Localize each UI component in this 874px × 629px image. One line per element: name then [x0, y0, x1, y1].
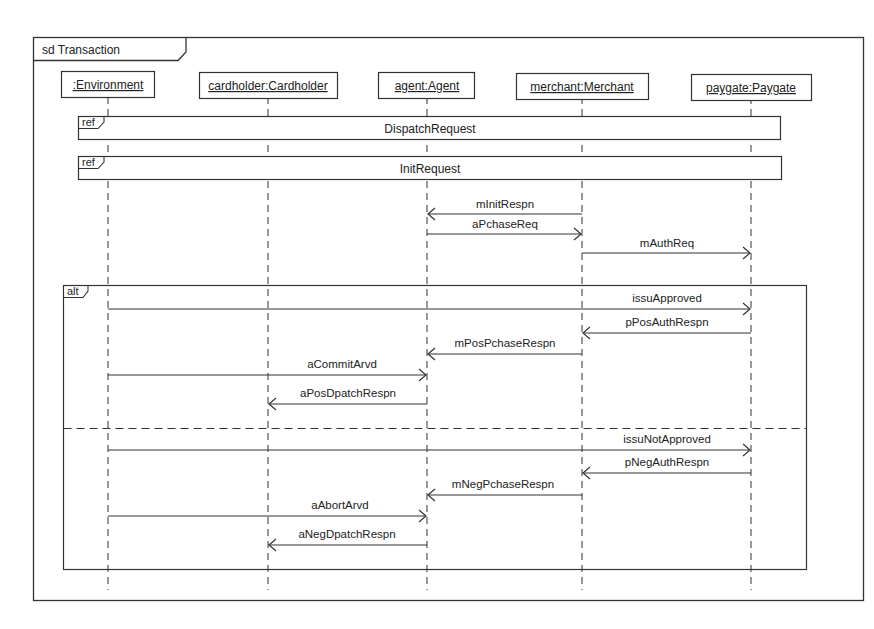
message-issunotapproved: issuNotApproved: [108, 433, 750, 456]
ref-tag: ref: [82, 156, 96, 168]
svg-text:mAuthReq: mAuthReq: [640, 237, 694, 249]
svg-text:cardholder:Cardholder: cardholder:Cardholder: [208, 79, 327, 93]
lifeline-header-agent: agent:Agent: [379, 73, 475, 99]
message-minitrespn: mInitRespn: [428, 198, 582, 220]
lifeline-headers: :Environment cardholder:Cardholder agent…: [62, 72, 812, 101]
svg-text:pNegAuthRespn: pNegAuthRespn: [625, 456, 709, 468]
svg-text::Environment: :Environment: [73, 78, 144, 92]
message-mnegpchaserespn: mNegPchaseRespn: [428, 478, 582, 501]
svg-text:aAbortArvd: aAbortArvd: [311, 499, 369, 511]
svg-text:pPosAuthRespn: pPosAuthRespn: [625, 316, 708, 328]
svg-text:mInitRespn: mInitRespn: [476, 198, 534, 210]
lifeline-header-paygate: paygate:Paygate: [692, 75, 812, 101]
lifeline-header-merchant: merchant:Merchant: [517, 74, 649, 100]
message-acommitarvd: aCommitArvd: [108, 358, 426, 381]
svg-text:aCommitArvd: aCommitArvd: [307, 358, 377, 370]
message-aposdpatchrespn: aPosDpatchRespn: [269, 387, 427, 410]
ref-init-request: ref InitRequest: [79, 156, 782, 180]
message-pposauthrespn: pPosAuthRespn: [583, 316, 751, 339]
message-mpospchaserespn: mPosPchaseRespn: [428, 337, 582, 360]
svg-text:issuNotApproved: issuNotApproved: [623, 433, 711, 445]
svg-text:merchant:Merchant: merchant:Merchant: [530, 80, 634, 94]
svg-text:aNegDpatchRespn: aNegDpatchRespn: [298, 528, 395, 540]
message-anegdpatchrespn: aNegDpatchRespn: [269, 528, 427, 551]
message-mauthreq: mAuthReq: [582, 237, 750, 259]
alt-operand-approved: issuApproved pPosAuthRespn mPosPchaseRes…: [108, 292, 751, 410]
message-apchasereq: aPchaseReq: [427, 218, 581, 240]
message-issuapproved: issuApproved: [108, 292, 750, 315]
ref-label: InitRequest: [400, 162, 461, 176]
frame-title: sd Transaction: [42, 43, 120, 57]
message-aabortarvd: aAbortArvd: [108, 499, 426, 522]
alt-tag: alt: [67, 285, 79, 297]
message-pnegauthrespn: pNegAuthRespn: [583, 456, 751, 479]
svg-text:agent:Agent: agent:Agent: [395, 79, 460, 93]
svg-text:mPosPchaseRespn: mPosPchaseRespn: [455, 337, 556, 349]
ref-dispatch-request: ref DispatchRequest: [79, 116, 781, 140]
messages-pre: mInitRespn aPchaseReq mAuthReq: [427, 198, 750, 259]
sequence-diagram: sd Transaction :Environment cardholder:C…: [0, 0, 874, 629]
ref-tag: ref: [82, 116, 96, 128]
lifeline-header-cardholder: cardholder:Cardholder: [200, 73, 338, 99]
svg-text:mNegPchaseRespn: mNegPchaseRespn: [452, 478, 554, 490]
svg-text:aPchaseReq: aPchaseReq: [472, 218, 538, 230]
alt-operand-not-approved: issuNotApproved pNegAuthRespn mNegPchase…: [108, 433, 751, 551]
svg-text:paygate:Paygate: paygate:Paygate: [706, 81, 796, 95]
ref-label: DispatchRequest: [384, 122, 476, 136]
svg-text:issuApproved: issuApproved: [632, 292, 702, 304]
svg-text:aPosDpatchRespn: aPosDpatchRespn: [300, 387, 396, 399]
lifeline-header-environment: :Environment: [62, 72, 155, 98]
